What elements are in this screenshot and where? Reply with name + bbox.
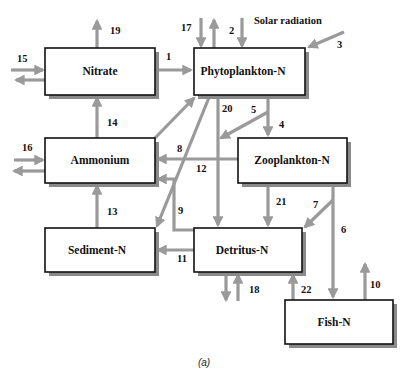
flow-label-17: 17	[181, 22, 192, 33]
flow-label-20: 20	[222, 103, 233, 114]
flow-label-11: 11	[177, 253, 187, 264]
flow-ammonium-phyto-arrow	[155, 98, 194, 138]
flow-label-13: 13	[107, 206, 118, 217]
flow-label-9: 9	[178, 205, 183, 216]
figure-caption: (a)	[198, 357, 210, 368]
flow-label-21: 21	[276, 196, 287, 207]
flow-label-14: 14	[107, 117, 118, 128]
flow-label-12: 12	[196, 163, 207, 174]
flow-label-6: 6	[341, 224, 346, 235]
flow-label-16: 16	[22, 142, 33, 153]
box-detritus: Detritus-N	[194, 228, 306, 276]
box-label-sediment: Sediment-N	[68, 244, 127, 256]
nitrogen-cycle-diagram: Nitrate Phytoplankton-N Ammonium Zooplan…	[0, 0, 408, 380]
flow-label-15: 15	[17, 53, 28, 64]
flow-label-3: 3	[337, 39, 342, 50]
box-label-phytoplankton: Phytoplankton-N	[201, 65, 287, 78]
flow-7-arrow	[305, 200, 333, 227]
flow-label-1: 1	[166, 51, 171, 62]
box-nitrate: Nitrate	[45, 48, 159, 99]
box-ammonium: Ammonium	[45, 138, 159, 187]
flow-5-arrow	[221, 112, 268, 138]
flow-label-4: 4	[279, 119, 285, 130]
flow-label-8: 8	[177, 143, 182, 154]
box-phytoplankton: Phytoplankton-N	[194, 48, 309, 99]
box-label-detritus: Detritus-N	[216, 244, 269, 256]
box-label-nitrate: Nitrate	[82, 65, 117, 77]
flow-label-7: 7	[313, 199, 318, 210]
flow-label-10: 10	[370, 279, 381, 290]
box-sediment: Sediment-N	[45, 228, 159, 276]
flow-label-18: 18	[249, 284, 260, 295]
flow-9-arrow	[158, 179, 196, 230]
box-label-ammonium: Ammonium	[71, 154, 130, 166]
box-fish: Fish-N	[285, 300, 397, 348]
flow-label-19: 19	[110, 25, 121, 36]
box-label-zooplankton: Zooplankton-N	[254, 154, 330, 167]
flow-label-22: 22	[301, 284, 312, 295]
box-label-fish: Fish-N	[317, 316, 351, 328]
flow-label-solar-radiation: Solar radiation	[254, 15, 322, 26]
box-zooplankton: Zooplankton-N	[238, 138, 351, 187]
flow-label-2: 2	[229, 25, 234, 36]
flow-label-5: 5	[251, 104, 256, 115]
